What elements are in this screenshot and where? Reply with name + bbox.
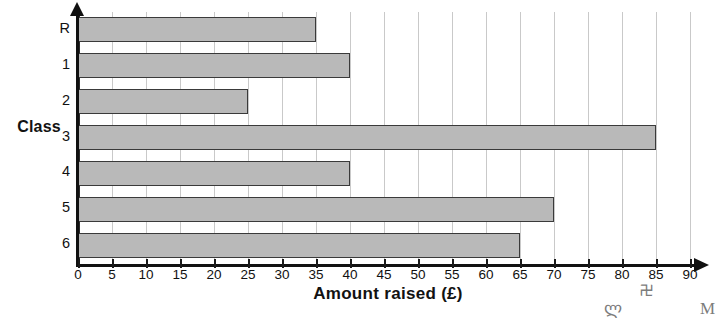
scan-artifact-0: ლ xyxy=(604,298,622,319)
gridline-90 xyxy=(690,12,691,263)
bar-1 xyxy=(78,53,350,78)
plot-area xyxy=(78,12,690,263)
y-tick-label-2: 2 xyxy=(44,92,70,108)
y-axis-line xyxy=(76,14,79,266)
y-tick-label-6: 6 xyxy=(44,235,70,251)
bar-6 xyxy=(78,233,520,258)
gridline-85 xyxy=(656,12,657,263)
bar-5 xyxy=(78,197,554,222)
bar-R xyxy=(78,17,316,42)
y-tick-label-3: 3 xyxy=(44,128,70,144)
scan-artifact-2: M xyxy=(700,299,715,319)
scan-artifact-1: ࿖ xyxy=(640,271,653,319)
y-axis-arrow-icon xyxy=(70,2,84,16)
y-tick-label-1: 1 xyxy=(44,56,70,72)
x-tick-label-90: 90 xyxy=(670,267,710,282)
bar-2 xyxy=(78,89,248,114)
bar-4 xyxy=(78,161,350,186)
bar-3 xyxy=(78,125,656,150)
y-tick-label-4: 4 xyxy=(44,163,70,179)
y-tick-label-R: R xyxy=(44,20,70,36)
y-tick-label-5: 5 xyxy=(44,199,70,215)
